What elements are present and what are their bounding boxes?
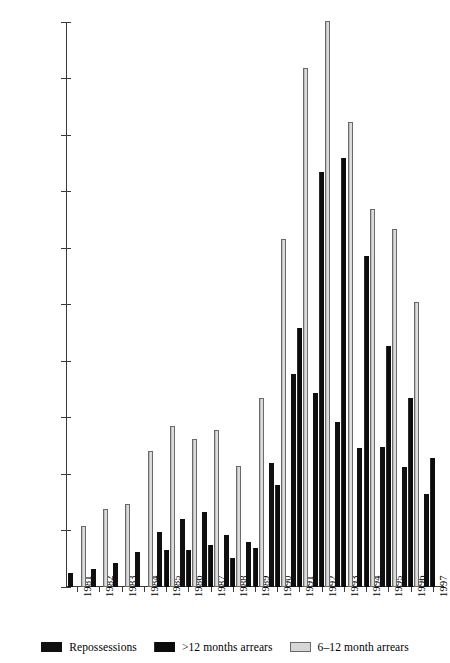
bar (125, 504, 130, 587)
bar (230, 558, 235, 587)
bar (341, 158, 346, 587)
legend-swatch-repossessions (41, 642, 62, 652)
x-tick-label: 1989 (249, 597, 261, 643)
bar (357, 448, 362, 587)
bar (335, 422, 340, 587)
bar (246, 542, 251, 587)
legend-item: 6–12 month arrears (290, 641, 409, 653)
bar (370, 209, 375, 587)
x-tick-label: 1981 (71, 597, 83, 643)
bar (303, 68, 308, 587)
x-tick-label: 1987 (205, 597, 217, 643)
bar (281, 239, 286, 587)
x-tick-label: 1991 (293, 597, 305, 643)
bar (414, 302, 419, 587)
legend-label: >12 months arrears (182, 641, 273, 653)
bar (202, 512, 207, 587)
legend-label: 6–12 month arrears (318, 641, 409, 653)
x-tick-label: 1990 (271, 597, 283, 643)
bar (81, 526, 86, 587)
bar (192, 439, 197, 587)
bar (208, 545, 213, 587)
x-tick-label: 1983 (116, 597, 128, 643)
bar (386, 346, 391, 587)
legend-swatch-over12 (154, 642, 175, 652)
bar (180, 519, 185, 587)
x-tick-label: 1993 (338, 597, 350, 643)
bar (68, 573, 73, 587)
bar (91, 569, 96, 587)
bar (348, 122, 353, 587)
bar (103, 509, 108, 587)
x-tick-label: 1982 (93, 597, 105, 643)
bar (214, 430, 219, 587)
x-tick-label: 1984 (138, 597, 150, 643)
bar (297, 328, 302, 587)
bar (430, 458, 435, 587)
bar (313, 393, 318, 587)
bar (164, 550, 169, 587)
x-tick-label: 1996 (405, 597, 417, 643)
bars-container (66, 22, 444, 587)
bar (135, 552, 140, 587)
x-tick-label: 1997 (427, 597, 439, 643)
bar (259, 398, 264, 587)
bar (364, 256, 369, 587)
bar (253, 548, 258, 587)
bar (170, 426, 175, 587)
legend-swatch-6to12 (290, 642, 311, 652)
legend-item: >12 months arrears (154, 641, 273, 653)
bar (291, 374, 296, 587)
bar (224, 535, 229, 587)
x-tick-label: 1988 (227, 597, 239, 643)
bar (148, 451, 153, 587)
bar (402, 467, 407, 587)
bar (275, 485, 280, 587)
bar (113, 563, 118, 587)
x-tick-label: 1995 (382, 597, 394, 643)
bar (186, 550, 191, 587)
bar (392, 229, 397, 587)
x-tick-label: 1994 (360, 597, 372, 643)
bar-chart: 0200004000060000800001000001200001400001… (0, 0, 450, 663)
bar (325, 21, 330, 587)
chart-legend: Repossessions>12 months arrears6–12 mont… (0, 641, 450, 653)
bar (236, 466, 241, 587)
x-tick-label: 1986 (182, 597, 194, 643)
bar (424, 494, 429, 587)
bar (157, 532, 162, 587)
bar (319, 172, 324, 587)
bar (408, 398, 413, 587)
legend-item: Repossessions (41, 641, 137, 653)
legend-label: Repossessions (69, 641, 137, 653)
x-tick-label: 1992 (316, 597, 328, 643)
bar (380, 447, 385, 587)
bar (269, 463, 274, 587)
x-tick-label: 1985 (160, 597, 172, 643)
